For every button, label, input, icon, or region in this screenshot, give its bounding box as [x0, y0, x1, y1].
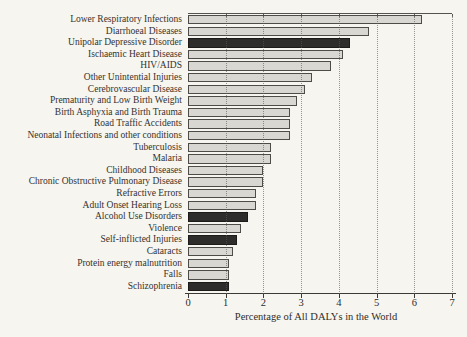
bar: [188, 154, 271, 163]
bar-row: Lower Respiratory Infections: [0, 14, 467, 26]
axis-tick-label: 4: [336, 297, 341, 309]
bar: [188, 189, 256, 198]
bar-highlighted: [188, 282, 229, 291]
bar-row: Self-inflicted Injuries: [0, 234, 467, 246]
category-label: Childhood Diseases: [0, 166, 188, 176]
bar: [188, 85, 305, 94]
category-label: Protein energy malnutrition: [0, 259, 188, 269]
bar-track: [188, 73, 452, 82]
bar-track: [188, 85, 452, 94]
bar-row: Diarrhoeal Diseases: [0, 26, 467, 38]
bar-track: [188, 201, 452, 210]
bar-track: [188, 259, 452, 268]
bar: [188, 131, 290, 140]
axis-tick-label: 2: [261, 297, 266, 309]
bar: [188, 96, 297, 105]
category-label: Neonatal Infections and other conditions: [0, 131, 188, 141]
category-label: Falls: [0, 270, 188, 280]
bar-track: [188, 27, 452, 36]
category-label: HIV/AIDS: [0, 61, 188, 71]
bar-track: [188, 166, 452, 175]
bar-track: [188, 224, 452, 233]
x-axis-tick-labels: 01234567: [0, 297, 467, 310]
bar-rows: Lower Respiratory InfectionsDiarrhoeal D…: [0, 14, 467, 292]
bar: [188, 177, 263, 186]
axis-tick-label: 0: [185, 297, 190, 309]
category-label: Birth Asphyxia and Birth Trauma: [0, 108, 188, 118]
bar: [188, 119, 290, 128]
axis-tick-label: 5: [374, 297, 379, 309]
category-label: Prematurity and Low Birth Weight: [0, 96, 188, 106]
x-axis-title: Percentage of All DALYs in the World: [235, 311, 397, 322]
bar-track: [188, 15, 452, 24]
bar: [188, 73, 312, 82]
daly-bar-chart-figure: Lower Respiratory InfectionsDiarrhoeal D…: [0, 0, 467, 337]
bar-track: [188, 61, 452, 70]
bar-track: [188, 96, 452, 105]
bar: [188, 201, 256, 210]
bar-row: Alcohol Use Disorders: [0, 211, 467, 223]
axis-tick-label: 6: [412, 297, 417, 309]
category-label: Cataracts: [0, 247, 188, 257]
bar: [188, 108, 290, 117]
bar-highlighted: [188, 212, 248, 221]
bar-row: Falls: [0, 269, 467, 281]
bar-track: [188, 50, 452, 59]
category-label: Malaria: [0, 154, 188, 164]
bar: [188, 247, 233, 256]
bar-row: Schizophrenia: [0, 281, 467, 293]
category-label: Unipolar Depressive Disorder: [0, 38, 188, 48]
bar-row: Other Unintential Injuries: [0, 72, 467, 84]
bar: [188, 224, 241, 233]
category-label: Road Traffic Accidents: [0, 119, 188, 129]
bar-track: [188, 282, 452, 291]
bar-row: Chronic Obstructive Pulmonary Disease: [0, 176, 467, 188]
bar: [188, 259, 229, 268]
axis-tick-label: 7: [449, 297, 454, 309]
category-label: Lower Respiratory Infections: [0, 15, 188, 25]
category-label: Chronic Obstructive Pulmonary Disease: [0, 177, 188, 187]
bar-track: [188, 177, 452, 186]
category-label: Diarrhoeal Diseases: [0, 27, 188, 37]
category-label: Alcohol Use Disorders: [0, 212, 188, 222]
bar-row: Adult Onset Hearing Loss: [0, 200, 467, 212]
bar-track: [188, 154, 452, 163]
bar-track: [188, 108, 452, 117]
category-label: Schizophrenia: [0, 282, 188, 292]
category-label: Violence: [0, 224, 188, 234]
bar: [188, 27, 369, 36]
bar-row: Childhood Diseases: [0, 165, 467, 177]
bar: [188, 15, 422, 24]
bar-track: [188, 119, 452, 128]
category-label: Refractive Errors: [0, 189, 188, 199]
bar-track: [188, 235, 452, 244]
x-axis: [185, 293, 456, 294]
bar-row: Birth Asphyxia and Birth Trauma: [0, 107, 467, 119]
bar-row: HIV/AIDS: [0, 60, 467, 72]
axis-tick-label: 3: [299, 297, 304, 309]
bar-track: [188, 131, 452, 140]
category-label: Adult Onset Hearing Loss: [0, 201, 188, 211]
axis-tick-label: 1: [223, 297, 228, 309]
bar-row: Refractive Errors: [0, 188, 467, 200]
bar-row: Neonatal Infections and other conditions: [0, 130, 467, 142]
bar: [188, 166, 263, 175]
bar-row: Cataracts: [0, 246, 467, 258]
bar-track: [188, 247, 452, 256]
bar-row: Violence: [0, 223, 467, 235]
bar-row: Cerebrovascular Disease: [0, 84, 467, 96]
bar-track: [188, 38, 452, 47]
category-label: Ischaemic Heart Disease: [0, 50, 188, 60]
bar-track: [188, 212, 452, 221]
bar-row: Malaria: [0, 153, 467, 165]
bar-row: Unipolar Depressive Disorder: [0, 37, 467, 49]
bar-row: Protein energy malnutrition: [0, 257, 467, 269]
category-label: Cerebrovascular Disease: [0, 85, 188, 95]
bar: [188, 143, 271, 152]
bar: [188, 270, 229, 279]
bar-row: Tuberculosis: [0, 142, 467, 154]
bar-row: Ischaemic Heart Disease: [0, 49, 467, 61]
bar: [188, 61, 331, 70]
bar-row: Road Traffic Accidents: [0, 118, 467, 130]
bar: [188, 50, 343, 59]
